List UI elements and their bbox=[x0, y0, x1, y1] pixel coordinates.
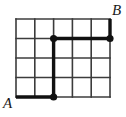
grid-horizontal-lines bbox=[16, 19, 110, 97]
end-point-label-b: B bbox=[112, 3, 121, 18]
lattice-path-figure: A B bbox=[0, 0, 126, 117]
lattice-grid-svg bbox=[0, 0, 126, 117]
node-right-turn-dot bbox=[106, 35, 113, 42]
start-point-label-a: A bbox=[3, 96, 12, 111]
node-bottom-turn-dot bbox=[50, 93, 57, 100]
path-nodes bbox=[50, 35, 114, 101]
node-middle-turn-dot bbox=[50, 35, 57, 42]
